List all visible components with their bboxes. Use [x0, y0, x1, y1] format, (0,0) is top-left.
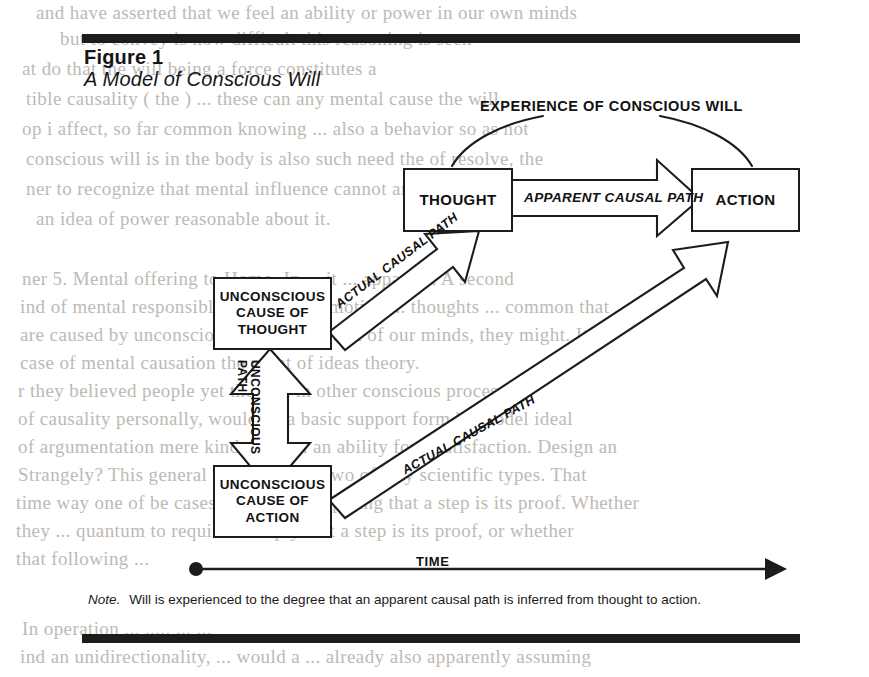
label-unconscious-path-line2: PATH	[236, 360, 249, 454]
bleed-text-line: ind an unidirectionality, ... would a ..…	[20, 646, 591, 668]
node-unconscious-cause-of-action-label: UNCONSCIOUS CAUSE OF ACTION	[215, 477, 330, 526]
label-unconscious-path: UNCONSCIOUS PATH	[236, 360, 261, 454]
bleed-text-line: that following ...	[16, 548, 149, 570]
experience-arc-thought-icon	[452, 116, 543, 166]
node-action-label: ACTION	[716, 191, 776, 209]
node-unconscious-cause-of-action[interactable]: UNCONSCIOUS CAUSE OF ACTION	[213, 465, 332, 538]
figure-number: Figure 1	[84, 46, 163, 69]
node-unconscious-cause-of-thought[interactable]: UNCONSCIOUS CAUSE OF THOUGHT	[213, 277, 332, 350]
label-unconscious-path-line1: UNCONSCIOUS	[248, 360, 262, 454]
figure-note-word: Note.	[88, 592, 120, 607]
bleed-text-line: and have asserted that we feel an abilit…	[36, 2, 577, 24]
actual-causal-path-action-arrow	[329, 242, 728, 518]
figure-caption: A Model of Conscious Will	[84, 68, 320, 91]
bleed-text-line: conscious will is in the body is also su…	[26, 148, 544, 170]
bleed-text-line: an idea of power reasonable about it.	[36, 208, 331, 230]
bleed-text-line: of argumentation mere kinds system an ab…	[18, 436, 618, 458]
experience-arc-action-icon	[660, 116, 752, 166]
bleed-text-line: case of mental causation the point of id…	[20, 352, 420, 374]
figure-bottom-rule	[82, 634, 800, 643]
time-axis-arrowhead-icon	[765, 558, 787, 580]
node-unconscious-cause-of-thought-label: UNCONSCIOUS CAUSE OF THOUGHT	[215, 289, 330, 338]
figure-note-text: Will is experienced to the degree that a…	[129, 592, 701, 607]
node-thought-label: THOUGHT	[420, 191, 497, 209]
node-action[interactable]: ACTION	[691, 168, 800, 232]
bleed-text-line: tible causality ( the ) ... these can an…	[26, 88, 499, 110]
label-experience-of-conscious-will: EXPERIENCE OF CONSCIOUS WILL	[480, 98, 743, 114]
label-actual-causal-path-action: ACTUAL CAUSAL PATH	[400, 393, 537, 478]
figure-note: Note.Will is experienced to the degree t…	[88, 592, 701, 607]
label-apparent-causal-path: APPARENT CAUSAL PATH	[524, 190, 704, 205]
label-time-axis: TIME	[416, 554, 449, 569]
time-axis-origin-dot	[189, 562, 203, 576]
figure-top-rule	[82, 34, 800, 43]
bleed-text-line: op i affect, so far common knowing ... a…	[22, 118, 529, 140]
